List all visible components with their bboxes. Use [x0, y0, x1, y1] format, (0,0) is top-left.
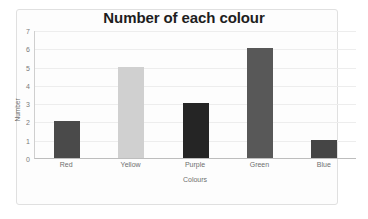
bar-slot — [292, 31, 356, 158]
y-axis-tick-label: 2 — [26, 119, 30, 126]
bar-yellow — [118, 67, 144, 158]
x-axis-title: Colours — [34, 176, 356, 183]
y-axis-tick-label: 4 — [26, 82, 30, 89]
y-axis-tick-label: 5 — [26, 64, 30, 71]
y-axis-tick-label: 7 — [26, 28, 30, 35]
x-axis-tick-label: Yellow — [98, 161, 162, 168]
plot-area — [34, 31, 356, 159]
x-axis-ticks: RedYellowPurpleGreenBlue — [34, 161, 356, 168]
bar-slot — [163, 31, 227, 158]
bar-slot — [99, 31, 163, 158]
y-axis-tick-label: 0 — [26, 156, 30, 163]
y-axis-ticks: 01234567 — [16, 31, 30, 159]
x-axis-tick-label: Purple — [163, 161, 227, 168]
x-axis-tick-label: Red — [34, 161, 98, 168]
y-axis-tick-label: 3 — [26, 101, 30, 108]
y-axis-tick-label: 1 — [26, 137, 30, 144]
chart-title: Number of each colour — [0, 9, 368, 26]
x-axis-tick-label: Blue — [292, 161, 356, 168]
x-axis-tick-label: Green — [227, 161, 291, 168]
bar-purple — [183, 103, 209, 158]
bar-slot — [35, 31, 99, 158]
bar-red — [54, 121, 80, 158]
bar-series — [35, 31, 356, 158]
bar-chart: Number of each colour Number 01234567 Re… — [0, 0, 368, 219]
bar-blue — [311, 140, 337, 158]
bar-slot — [228, 31, 292, 158]
bar-green — [247, 48, 273, 158]
y-axis-tick-label: 6 — [26, 46, 30, 53]
